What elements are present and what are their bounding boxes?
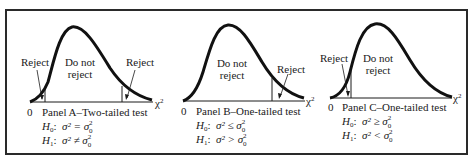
sigma0-subsup: 20 xyxy=(243,133,248,143)
h-subscript: 0 xyxy=(50,126,54,134)
h-symbol: H xyxy=(42,120,50,132)
axis-superscript: 2 xyxy=(160,97,164,105)
h1-relation: σ² > σ xyxy=(216,133,243,145)
panel-a-title: Panel A–Two-tailed test xyxy=(42,106,148,118)
panel-a-reject-left-label: Reject xyxy=(21,56,49,68)
sigma-subscript: 0 xyxy=(88,139,92,151)
h-symbol: H xyxy=(196,119,204,131)
sigma0-subsup: 20 xyxy=(242,119,247,129)
panel-b-h1: H1: σ² > σ20 xyxy=(196,133,248,149)
h-symbol: H xyxy=(342,129,350,141)
panel-c-do-not-reject-label: Do not reject xyxy=(358,52,398,76)
panel-c-title: Panel C–One-tailed test xyxy=(342,101,446,113)
panel-a-do-not-reject-label: Do not reject xyxy=(60,56,100,80)
panel-a-reject-right-label: Reject xyxy=(126,56,154,68)
sigma-subscript: 0 xyxy=(243,138,247,150)
panel-b-do-not-reject-label: Do not reject xyxy=(212,57,252,81)
panel-c-axis-label: χ2 xyxy=(453,90,461,104)
reject-text: reject xyxy=(60,68,100,80)
panel-c-reject-label: Reject xyxy=(320,52,348,64)
h1-relation: σ² < σ xyxy=(362,129,389,141)
panel-b-axis-label: χ2 xyxy=(306,93,314,107)
sigma0-subsup: 20 xyxy=(89,120,94,130)
panel-b-title: Panel B–One-tailed test xyxy=(196,105,300,117)
sigma0-subsup: 20 xyxy=(88,134,93,144)
panel-b-origin-label: 0 xyxy=(181,105,187,117)
do-not-text: Do not xyxy=(212,57,252,69)
reject-text: reject xyxy=(358,64,398,76)
panel-c-origin-label: 0 xyxy=(328,101,334,113)
h-symbol: H xyxy=(42,134,50,146)
sigma0-subsup: 20 xyxy=(389,129,394,139)
h-subscript: 0 xyxy=(350,121,354,129)
h-subscript: 1 xyxy=(50,140,54,148)
h-subscript: 1 xyxy=(204,139,208,147)
sigma-subscript: 0 xyxy=(389,134,393,146)
do-not-text: Do not xyxy=(60,56,100,68)
h0-relation: σ² = σ xyxy=(62,120,89,132)
arrowhead-icon xyxy=(125,94,129,100)
h-symbol: H xyxy=(196,133,204,145)
arrowhead-icon xyxy=(40,95,44,100)
h-symbol: H xyxy=(342,115,350,127)
panel-b-reject-label: Reject xyxy=(277,63,305,75)
panel-c-h1: H1: σ² < σ20 xyxy=(342,129,394,145)
do-not-text: Do not xyxy=(358,52,398,64)
h-subscript: 0 xyxy=(204,125,208,133)
panel-a-h1: H1: σ² ≠ σ20 xyxy=(42,134,93,150)
h1-relation: σ² ≠ σ xyxy=(62,134,88,146)
h-subscript: 1 xyxy=(350,135,354,143)
h0-relation: σ² ≥ σ xyxy=(362,115,388,127)
panel-a-axis-label: χ2 xyxy=(155,95,163,109)
axis-superscript: 2 xyxy=(458,92,462,100)
arrowhead-icon xyxy=(346,91,350,97)
arrowhead-icon xyxy=(278,93,282,99)
sigma0-subsup: 20 xyxy=(388,115,393,125)
panel-a-origin-label: 0 xyxy=(27,106,33,118)
axis-superscript: 2 xyxy=(311,95,315,103)
reject-text: reject xyxy=(212,69,252,81)
h0-relation: σ² ≤ σ xyxy=(216,119,242,131)
